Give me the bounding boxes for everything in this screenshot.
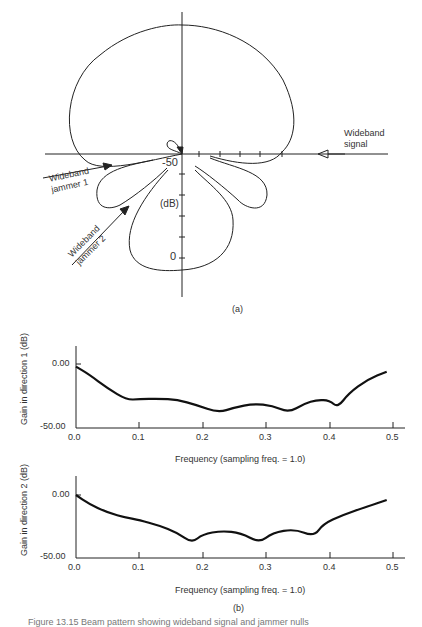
plot2-xtick: 0.3: [259, 562, 272, 572]
plot-direction-2: [76, 476, 405, 558]
panel-b-label: (b): [233, 603, 244, 613]
plot2-xtick: 0.5: [386, 562, 399, 572]
plot1-xtick: 0.3: [259, 432, 272, 442]
plot1-ytick-top: 0.00: [52, 358, 70, 368]
jammer1-arrow-icon: [103, 163, 112, 170]
plot1-xtick: 0.2: [196, 432, 209, 442]
plot2-ylabel-text: Gain in direction 2 (dB): [19, 476, 29, 556]
plot1-ylabel: Gain in direction 1 (dB): [19, 345, 29, 425]
plot2-ytick-top: 0.00: [52, 489, 70, 499]
plot2-curve: [76, 495, 387, 541]
right-side-lobe: [195, 158, 267, 208]
signal-label-line2: signal: [344, 139, 385, 150]
polar-tick-minus50: -50: [162, 156, 178, 168]
plot2-xtick: 0.4: [323, 562, 336, 572]
plot1-curve: [76, 367, 387, 411]
plot1-xtick: 0.0: [68, 432, 81, 442]
plot-direction-1: [76, 346, 405, 428]
figure-caption: Figure 13.15 Beam pattern showing wideba…: [28, 617, 309, 627]
plot2-ylabel: Gain in direction 2 (dB): [19, 476, 29, 556]
figure-canvas: [0, 0, 422, 627]
polar-tick-0: 0: [170, 250, 176, 262]
plot1-ytick-bottom: -50.00: [40, 421, 66, 431]
plot2-xtick: 0.0: [68, 562, 81, 572]
signal-label: Wideband signal: [344, 128, 385, 150]
signal-label-line1: Wideband: [344, 128, 385, 139]
plot1-xlabel: Frequency (sampling freq. = 1.0): [175, 454, 305, 464]
plot1-xtick: 0.4: [323, 432, 336, 442]
plot2-xlabel: Frequency (sampling freq. = 1.0): [175, 585, 305, 595]
polar-unit-label: (dB): [160, 198, 179, 209]
lower-lobe: [129, 170, 233, 271]
plot1-ylabel-text: Gain in direction 1 (dB): [19, 345, 29, 425]
plot1-xtick: 0.5: [386, 432, 399, 442]
plot1-xtick: 0.1: [132, 432, 145, 442]
plot2-xtick: 0.2: [196, 562, 209, 572]
panel-a-label: (a): [232, 304, 243, 314]
plot2-xtick: 0.1: [132, 562, 145, 572]
plot2-ytick-bottom: -50.00: [40, 551, 66, 561]
